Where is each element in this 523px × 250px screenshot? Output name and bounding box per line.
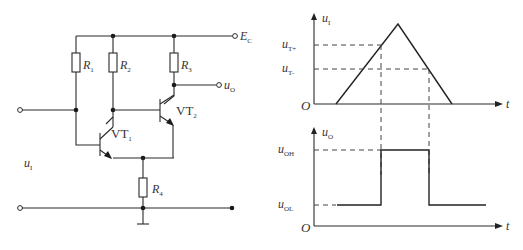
ground-terminal-left [18, 206, 23, 211]
supply-terminal [233, 34, 238, 39]
junction-dot [141, 206, 146, 211]
output-label: uO [224, 78, 235, 94]
junction-dot [74, 108, 79, 113]
input-terminal [18, 108, 23, 113]
y-axis-label: uO [322, 125, 333, 141]
r1-label: R1 [82, 58, 94, 74]
arrow-up-icon [311, 13, 317, 20]
resistor-r4 [139, 178, 147, 197]
level-label-ut-plus: uT+ [282, 37, 296, 53]
schmitt-trigger-figure: EC R1 R2 R3 R4 VT1 VT2 uO uI uI uT+ uT- … [0, 0, 523, 250]
triangle-wave [336, 24, 452, 104]
origin-label: O [301, 220, 311, 235]
r1-wire [76, 36, 100, 145]
r3-label: R3 [180, 58, 192, 74]
y-axis-label: uI [322, 11, 331, 27]
arrow-up-icon [311, 127, 317, 134]
transistor-vt2 [160, 95, 174, 158]
resistor-r1 [72, 53, 80, 72]
resistor-r2 [109, 53, 117, 72]
r4-label: R4 [151, 182, 163, 198]
vt2-label: VT2 [176, 103, 197, 120]
input-label: uI [24, 156, 33, 172]
emitter-arrow-icon [104, 151, 112, 159]
level-label-uoh: uOH [278, 142, 294, 158]
x-axis-label: t [506, 97, 510, 111]
level-label-uol: uOL [278, 197, 293, 213]
origin-label: O [301, 98, 311, 113]
pulse-wave [337, 150, 486, 205]
arrow-right-icon [495, 223, 503, 229]
level-label-ut-minus: uT- [282, 61, 295, 77]
emitter-arrow-icon [166, 118, 174, 126]
r2-label: R2 [119, 58, 131, 74]
junction-dot [172, 83, 177, 88]
output-terminal [217, 83, 222, 88]
resistor-r3 [170, 53, 178, 72]
supply-label: EC [239, 29, 252, 45]
x-axis-label: t [506, 219, 510, 233]
ground-terminal-right [230, 206, 235, 211]
arrow-right-icon [495, 101, 503, 107]
vt1-label: VT1 [111, 126, 132, 143]
output-waveform-plot: uO uOH uOL O t [278, 125, 510, 235]
circuit-diagram: EC R1 R2 R3 R4 VT1 VT2 uO uI [18, 29, 253, 224]
